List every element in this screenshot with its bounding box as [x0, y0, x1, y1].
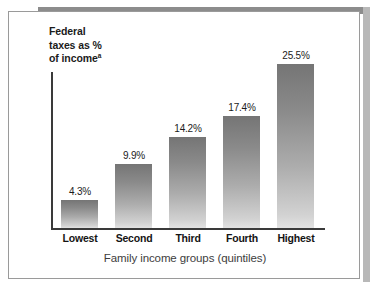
x-axis-label-lowest: Lowest [53, 232, 107, 244]
x-axis-category-labels: Lowest Second Third Fourth Highest [53, 232, 325, 250]
bar-value-label-third: 14.2% [161, 123, 215, 134]
bar-slot-lowest: 4.3% [53, 48, 107, 228]
y-axis-title-line-1: Federal [49, 25, 86, 37]
bar-value-label-fourth: 17.4% [215, 102, 269, 113]
bar-lowest [61, 200, 98, 228]
x-axis-title: Family income groups (quintiles) [9, 252, 361, 264]
bar-value-label-highest: 25.5% [269, 50, 323, 61]
bar-slot-fourth: 17.4% [215, 48, 269, 228]
bar-value-label-second: 9.9% [107, 150, 161, 161]
bar-third [169, 137, 206, 228]
bar-value-label-lowest: 4.3% [53, 186, 107, 197]
plot-area: Federal taxes as % of incomea 4.3% 9.9% … [9, 12, 361, 280]
x-axis-line [51, 228, 325, 230]
x-axis-label-fourth: Fourth [215, 232, 269, 244]
bar-slot-second: 9.9% [107, 48, 161, 228]
bar-slot-highest: 25.5% [269, 48, 323, 228]
x-axis-label-highest: Highest [269, 232, 323, 244]
chart-frame: Federal taxes as % of incomea 4.3% 9.9% … [8, 11, 360, 279]
bar-fourth [223, 116, 260, 228]
chart-figure: Federal taxes as % of incomea 4.3% 9.9% … [0, 0, 373, 289]
x-axis-label-third: Third [161, 232, 215, 244]
figure-shadow-right [363, 7, 370, 282]
bar-slot-third: 14.2% [161, 48, 215, 228]
bar-second [115, 164, 152, 228]
x-axis-label-second: Second [107, 232, 161, 244]
bar-group: 4.3% 9.9% 14.2% 17.4% 25.5% [53, 48, 325, 228]
bar-highest [277, 64, 314, 228]
